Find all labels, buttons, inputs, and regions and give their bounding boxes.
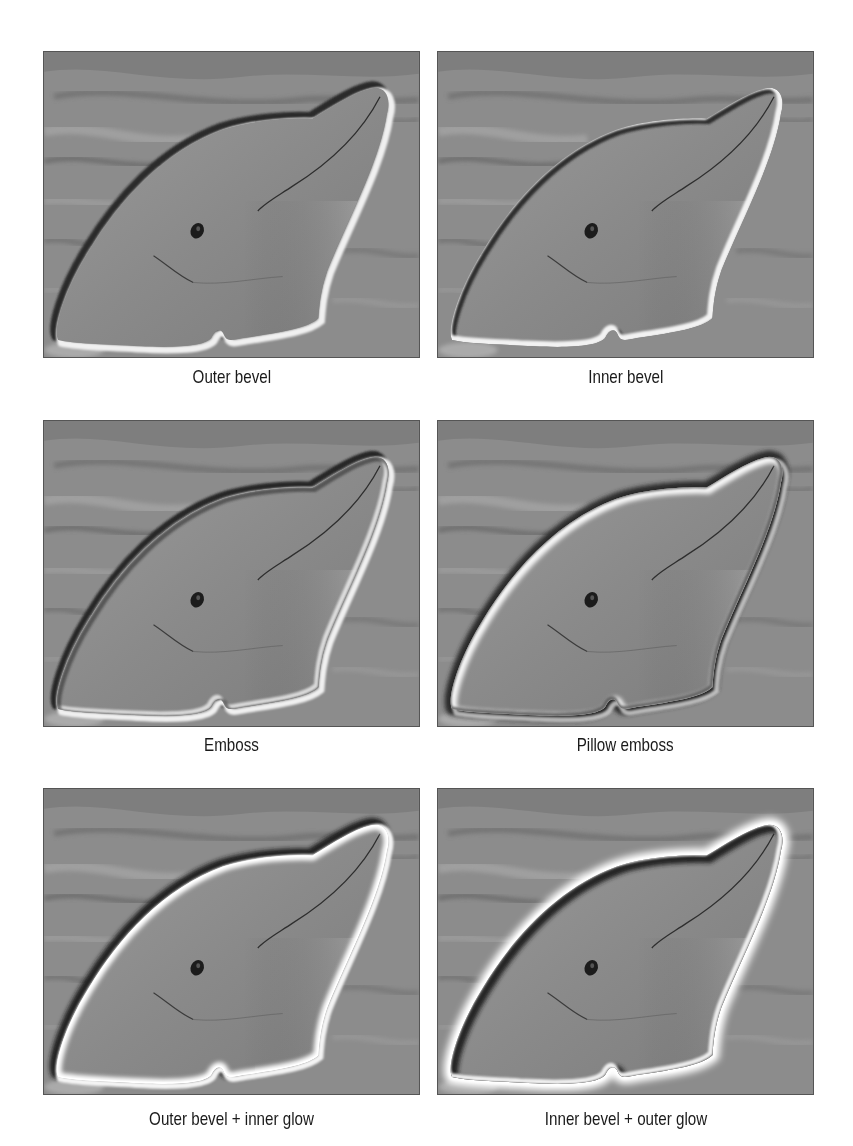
caption-outer-bevel: Outer bevel [43,366,420,388]
caption-emboss: Emboss [43,734,420,756]
dolphin-image-pillow-emboss [438,421,813,726]
dolphin-image-inner-bevel-outer-glow [438,789,813,1094]
panel-outer-bevel [43,51,420,358]
dolphin-image-inner-bevel [438,52,813,357]
panel-pillow-emboss [437,420,814,727]
caption-pillow-emboss: Pillow emboss [437,734,814,756]
panel-emboss [43,420,420,727]
dolphin-image-outer-bevel-inner-glow [44,789,419,1094]
panel-inner-bevel-outer-glow [437,788,814,1095]
caption-inner-bevel-outer-glow: Inner bevel + outer glow [437,1108,814,1130]
caption-outer-bevel-inner-glow: Outer bevel + inner glow [43,1108,420,1130]
caption-inner-bevel: Inner bevel [437,366,814,388]
panel-inner-bevel [437,51,814,358]
dolphin-image-outer-bevel [44,52,419,357]
dolphin-image-emboss [44,421,419,726]
panel-outer-bevel-inner-glow [43,788,420,1095]
